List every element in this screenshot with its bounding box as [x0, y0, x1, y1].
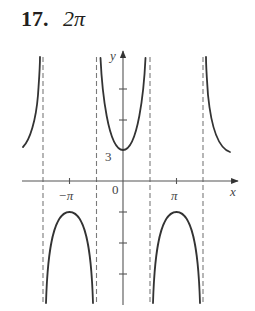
- curves: [23, 57, 230, 303]
- axes: [22, 51, 238, 305]
- branch-lower-right: [153, 212, 200, 303]
- y-axis-label: y: [108, 48, 116, 63]
- branch-upper-right: [206, 57, 230, 152]
- branch-lower-left: [46, 212, 93, 303]
- secant-graph: y x 0 3 −π π: [0, 0, 255, 311]
- x-tick-label-pi: π: [171, 188, 178, 203]
- y-value-3-label: 3: [105, 149, 112, 164]
- branch-upper-left: [23, 57, 40, 147]
- x-axis-label: x: [229, 184, 236, 199]
- origin-label: 0: [112, 182, 119, 197]
- x-tick-label-neg-pi: −π: [58, 188, 74, 203]
